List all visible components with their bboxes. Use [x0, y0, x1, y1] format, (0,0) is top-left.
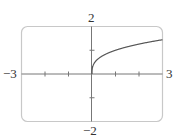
y-max-label: 2 — [88, 11, 95, 24]
function-curve — [92, 40, 163, 74]
y-min-label: −2 — [83, 124, 97, 137]
x-min-label: −3 — [3, 67, 17, 80]
x-max-label: 3 — [166, 67, 173, 80]
